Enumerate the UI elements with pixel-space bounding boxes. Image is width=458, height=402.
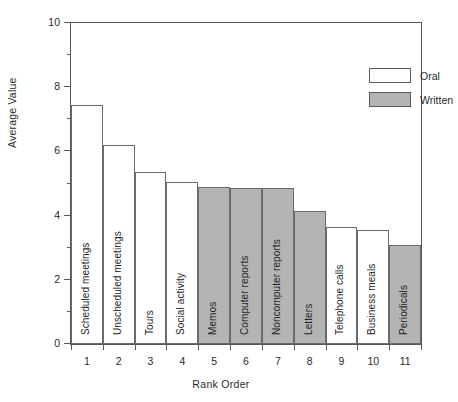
bar-label: Tours [144, 310, 155, 335]
bar: Tours [135, 172, 167, 344]
chart-legend: OralWritten [369, 67, 458, 115]
x-tick-label: 9 [326, 355, 356, 367]
x-tick [135, 344, 136, 350]
x-tick-label: 10 [358, 355, 388, 367]
bar-label: Business meals [366, 264, 377, 335]
x-tick-label: 6 [231, 355, 261, 367]
y-tick-10: 10 [64, 22, 71, 23]
legend-swatch [369, 92, 411, 107]
bar-label: Scheduled meetings [80, 243, 91, 335]
bar-label: Computer reports [239, 256, 250, 335]
x-tick-label: 2 [104, 355, 134, 367]
x-tick [357, 344, 358, 350]
x-tick-label: 3 [136, 355, 166, 367]
legend-label: Written [420, 94, 453, 106]
legend-item-oral: Oral [369, 67, 458, 84]
y-tick-6: 6 [64, 150, 71, 151]
bar: Business meals [357, 230, 389, 344]
x-tick-label: 5 [199, 355, 229, 367]
x-tick-label: 1 [72, 355, 102, 367]
y-tick-8: 8 [64, 86, 71, 87]
x-tick [389, 344, 390, 350]
x-tick-label: 8 [295, 355, 325, 367]
x-axis-title: Rank Order [0, 378, 442, 390]
x-tick [326, 344, 327, 350]
y-tick-label: 6 [54, 144, 60, 156]
bar-label: Periodicals [398, 285, 409, 335]
x-tick-label: 11 [390, 355, 420, 367]
y-tick-label: 8 [54, 80, 60, 92]
bar: Letters [294, 211, 326, 344]
x-tick [262, 344, 263, 350]
x-tick [421, 344, 422, 350]
bar-label: Letters [303, 304, 314, 335]
x-tick [166, 344, 167, 350]
x-tick [230, 344, 231, 350]
bar-label: Memos [207, 302, 218, 335]
bar: Computer reports [230, 188, 262, 344]
bar: Telephone calls [326, 227, 358, 344]
y-tick-label: 2 [54, 273, 60, 285]
x-tick-label: 4 [167, 355, 197, 367]
bar: Social activity [166, 182, 198, 344]
x-tick [103, 344, 104, 350]
y-tick-label: 10 [48, 16, 60, 28]
y-tick-2: 2 [64, 279, 71, 280]
y-tick-label: 0 [54, 337, 60, 349]
bar-label: Unscheduled meetings [112, 231, 123, 335]
x-tick [198, 344, 199, 350]
y-tick-4: 4 [64, 215, 71, 216]
legend-item-written: Written [369, 91, 458, 108]
bar-label: Social activity [175, 273, 186, 335]
y-tick-minor-9 [67, 54, 71, 55]
legend-swatch [369, 68, 411, 83]
bar: Unscheduled meetings [103, 145, 135, 344]
bar-label: Noncomputer reports [271, 239, 282, 335]
bar: Noncomputer reports [262, 188, 294, 344]
x-tick-label: 7 [263, 355, 293, 367]
y-tick-0: 0 [64, 343, 71, 344]
plot-area: 0246810 1234567891011 Scheduled meetings… [70, 22, 422, 345]
bar: Memos [198, 187, 230, 344]
legend-label: Oral [420, 70, 440, 82]
x-tick [294, 344, 295, 350]
bar-label: Telephone calls [334, 265, 345, 335]
y-axis-title: Average Value [6, 28, 26, 148]
y-tick-label: 4 [54, 209, 60, 221]
bar: Scheduled meetings [71, 105, 103, 344]
x-tick [71, 344, 72, 350]
bar: Periodicals [389, 245, 421, 345]
